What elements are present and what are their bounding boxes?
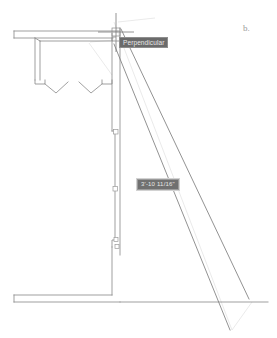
drawing-viewport[interactable] <box>0 0 277 338</box>
osnap-tooltip-perpendicular: Perpendicular <box>119 37 168 48</box>
dimension-input-tooltip[interactable]: 3'-10 11/16" <box>137 179 179 190</box>
door-opening-right <box>79 80 112 93</box>
left-interior-wall <box>35 38 40 80</box>
bottom-exterior-wall <box>14 247 120 302</box>
figure-label: b. <box>243 23 250 33</box>
cad-drawing-canvas[interactable]: Perpendicular 3'-10 11/16" b. <box>0 0 277 338</box>
grip-base[interactable] <box>115 245 119 249</box>
construction-lines <box>89 18 252 330</box>
grip-middle[interactable] <box>113 187 118 192</box>
door-opening-left <box>35 80 68 93</box>
grip-bottom[interactable] <box>114 238 118 242</box>
vertical-wall-selected[interactable] <box>112 28 120 255</box>
tracking-line-lower <box>114 22 232 330</box>
tracking-line-upper <box>118 18 155 22</box>
selection-grips[interactable] <box>113 130 119 249</box>
tracking-line-tail <box>232 302 252 330</box>
tracking-line-room-diag <box>89 43 112 75</box>
grip-top[interactable] <box>114 130 119 135</box>
